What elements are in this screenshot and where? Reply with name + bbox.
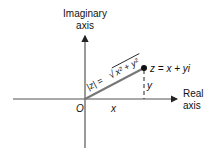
origin-label: O bbox=[76, 103, 84, 114]
real-axis-label: Real bbox=[183, 88, 204, 99]
real-axis-label-2: axis bbox=[183, 100, 201, 111]
point-z bbox=[141, 65, 147, 71]
complex-plane-diagram: Imaginary axis Real axis O x y z = x + y… bbox=[0, 0, 211, 162]
x-label: x bbox=[110, 103, 117, 114]
imaginary-axis-label: Imaginary bbox=[63, 8, 107, 19]
point-z-label: z = x + yi bbox=[149, 63, 191, 74]
modulus-radicand: x² + y² bbox=[112, 56, 141, 78]
y-label: y bbox=[146, 80, 153, 91]
imaginary-axis-label-2: axis bbox=[76, 20, 94, 31]
